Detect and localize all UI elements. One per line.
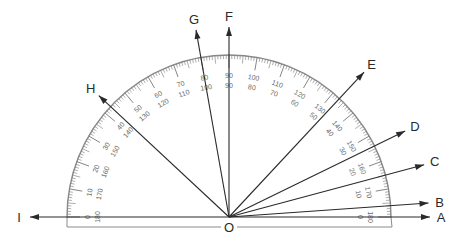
protractor-tick [105, 113, 115, 121]
protractor-scale-number: 40 [115, 121, 125, 132]
protractor-tick [171, 66, 172, 70]
protractor-tick [161, 70, 164, 77]
protractor-tick [146, 78, 148, 81]
ray-h [99, 96, 229, 217]
protractor-tick [74, 170, 78, 171]
arrowhead-icon [195, 30, 201, 39]
protractor-scale-number: 110 [271, 79, 284, 89]
protractor-scale-number: 120 [156, 97, 170, 109]
protractor-tick [76, 164, 80, 165]
protractor-tick [138, 83, 140, 86]
protractor-tick [357, 122, 360, 124]
protractor-tick [119, 99, 122, 102]
protractor-tick [378, 164, 382, 165]
protractor-tick [101, 117, 104, 119]
ray-label-e: E [367, 57, 376, 72]
protractor-tick [303, 74, 305, 78]
protractor-tick [143, 80, 145, 83]
protractor-tick [363, 131, 366, 133]
protractor-tick [198, 58, 199, 62]
protractor-tick [141, 81, 143, 84]
protractor-tick [322, 86, 324, 89]
protractor-tick [89, 136, 100, 143]
protractor-tick [155, 73, 157, 77]
protractor-tick [304, 77, 311, 88]
protractor-tick [382, 203, 390, 204]
protractor-tick [301, 73, 303, 77]
ray-b [229, 203, 429, 217]
protractor-tick [346, 109, 349, 112]
protractor-tick [69, 189, 82, 191]
protractor-tick [90, 134, 93, 136]
protractor-scale-number: 10 [85, 188, 93, 197]
protractor-tick [132, 88, 134, 91]
protractor-tick [82, 149, 89, 152]
protractor-tick [121, 97, 124, 100]
protractor-tick [355, 120, 358, 122]
protractor-tick [71, 183, 75, 184]
protractor-tick [158, 71, 160, 75]
protractor-tick [354, 117, 357, 119]
protractor-tick [93, 129, 96, 131]
protractor-tick [262, 59, 263, 63]
protractor-tick [345, 107, 348, 110]
protractor-tick [80, 154, 84, 156]
protractor-tick [100, 120, 103, 122]
protractor-tick [288, 67, 289, 71]
protractor-tick [148, 77, 155, 88]
protractor-scale-number: 30 [338, 146, 348, 156]
protractor-tick [315, 81, 317, 84]
protractor-tick [317, 83, 319, 86]
protractor-tick [293, 69, 295, 73]
protractor-tick [79, 156, 83, 157]
protractor-tick [92, 131, 95, 133]
ray-label-a: A [437, 210, 446, 225]
protractor-tick [376, 189, 389, 191]
protractor-scale-number: 80 [247, 83, 256, 91]
protractor-tick [190, 60, 191, 64]
protractor-tick [324, 88, 326, 91]
protractor-tick [325, 93, 333, 103]
protractor-tick [242, 56, 243, 64]
protractor-tick [358, 136, 369, 143]
protractor-tick [75, 167, 79, 168]
protractor-tick [163, 69, 165, 73]
protractor-tick [286, 66, 287, 70]
protractor-scale-number: 60 [153, 89, 163, 99]
ray-label-b: B [435, 195, 444, 210]
protractor-tick [364, 134, 367, 136]
protractor-tick [179, 63, 180, 67]
protractor-tick [103, 115, 106, 118]
protractor-tick [362, 129, 365, 131]
protractor-tick [166, 68, 168, 72]
protractor-scale-number: 10 [355, 190, 363, 199]
protractor-tick [150, 75, 152, 78]
protractor-tick [184, 61, 185, 65]
ray-label-f: F [225, 9, 233, 24]
protractor-tick [81, 151, 85, 153]
protractor-scale-number: 170 [364, 186, 373, 199]
protractor-tick [379, 167, 383, 168]
protractor-tick [95, 126, 98, 128]
protractor-tick [70, 186, 74, 187]
protractor-tick [168, 67, 169, 71]
protractor-tick [73, 172, 77, 173]
protractor-scale-number: 50 [308, 111, 319, 121]
ray-label-c: C [430, 154, 439, 169]
ray-labels: ABCDEFGHI [17, 9, 445, 225]
protractor-tick [280, 64, 281, 68]
protractor-tick [275, 62, 276, 66]
ray-label-h: H [86, 81, 95, 96]
protractor-tick [333, 95, 336, 98]
protractor-tick [112, 104, 115, 107]
protractor-tick [294, 70, 297, 77]
protractor-tick [382, 178, 386, 179]
protractor-tick [326, 89, 328, 92]
protractor-tick [278, 63, 279, 67]
protractor-tick [374, 154, 378, 156]
ray-label-d: D [410, 119, 419, 134]
protractor-tick [85, 143, 89, 145]
protractor-tick [123, 95, 126, 98]
protractor-tick [269, 61, 271, 69]
protractor-scale-number: 100 [247, 73, 260, 82]
